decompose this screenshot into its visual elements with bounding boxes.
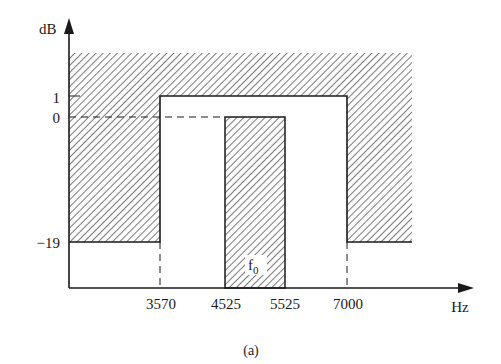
y-axis-arrow-icon xyxy=(64,18,74,34)
x-axis-arrow-icon xyxy=(458,283,474,293)
filter-mask-diagram: dB 1 0 −19 3570 4525 5525 7000 Hz f0 (a) xyxy=(0,0,501,364)
x-tick-label-3570: 3570 xyxy=(146,296,176,312)
y-tick-label-minus19: −19 xyxy=(37,235,60,251)
x-tick-label-7000: 7000 xyxy=(333,296,363,312)
y-tick-label-1: 1 xyxy=(53,90,61,106)
figure-caption: (a) xyxy=(243,343,259,359)
y-tick-label-0: 0 xyxy=(53,110,61,126)
y-unit-label: dB xyxy=(39,21,57,37)
x-unit-label: Hz xyxy=(451,299,469,315)
x-tick-label-4525: 4525 xyxy=(211,296,241,312)
x-tick-label-5525: 5525 xyxy=(270,296,300,312)
